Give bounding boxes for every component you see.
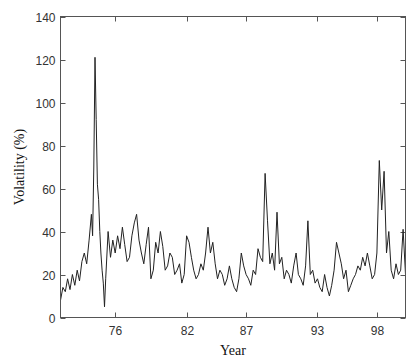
x-tick-label: 87 <box>240 324 254 338</box>
y-tick-label: 0 <box>49 312 56 326</box>
plot-frame <box>61 17 406 318</box>
volatility-chart: 020406080100120140 7682879398 Year Volat… <box>0 0 417 362</box>
y-tick-label: 140 <box>35 11 55 25</box>
x-tick-label: 76 <box>109 324 123 338</box>
y-tick-label: 80 <box>42 140 56 154</box>
y-tick-label: 20 <box>42 269 56 283</box>
y-tick-label: 120 <box>35 54 55 68</box>
x-tick-label: 93 <box>311 324 325 338</box>
y-tick-label: 40 <box>42 226 56 240</box>
x-tick-label: 98 <box>371 324 385 338</box>
x-axis-title: Year <box>220 343 246 358</box>
x-axis-ticks: 7682879398 <box>109 17 385 338</box>
volatility-series-line <box>61 57 406 306</box>
y-tick-label: 60 <box>42 183 56 197</box>
x-tick-label: 82 <box>181 324 195 338</box>
y-tick-label: 100 <box>35 97 55 111</box>
y-axis-ticks: 020406080100120140 <box>35 11 405 326</box>
y-axis-title: Volatility (%) <box>12 128 28 205</box>
